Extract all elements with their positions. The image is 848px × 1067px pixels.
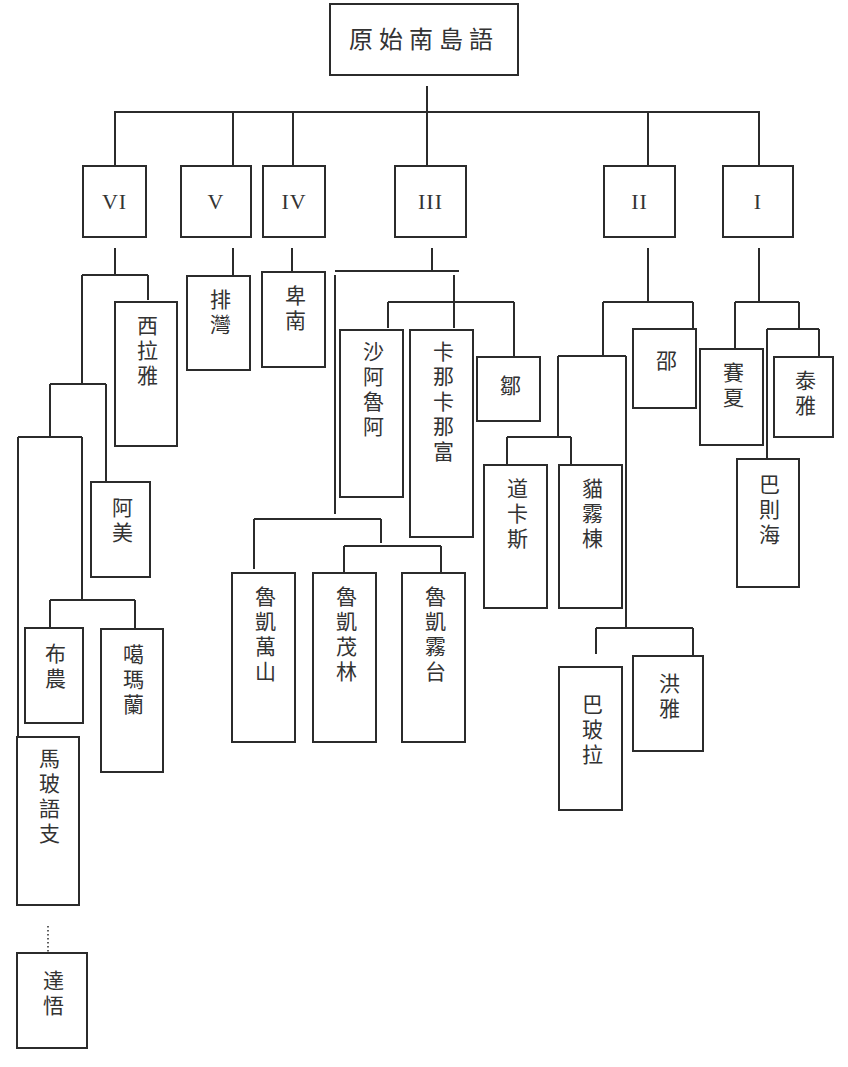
branch-label: IV [281, 187, 306, 217]
branch-node-vi: VI [82, 165, 147, 238]
branch-label: V [208, 187, 225, 217]
language-node-mapo-subgroup: 馬玻語支 [16, 736, 80, 906]
language-label: 巴則海 [753, 474, 783, 586]
language-label: 排灣 [204, 289, 234, 369]
language-label: 布農 [39, 643, 69, 722]
language-label: 魯凱茂林 [330, 586, 360, 741]
language-node-bunun: 布農 [24, 627, 84, 724]
language-label: 泰雅 [789, 370, 819, 436]
language-node-rukai-maolin: 魯凱茂林 [312, 572, 377, 743]
language-node-tao: 達悟 [16, 952, 88, 1049]
language-label: 洪雅 [653, 673, 683, 750]
language-node-amis: 阿美 [90, 481, 151, 578]
language-label: 賽夏 [717, 362, 747, 444]
language-node-saisiyat: 賽夏 [699, 348, 764, 446]
language-label: 西拉雅 [131, 315, 161, 445]
root-node-proto-austronesian: 原始南島語 [329, 3, 519, 76]
language-label: 鄒 [494, 375, 524, 420]
language-node-siraya: 西拉雅 [114, 301, 178, 447]
language-node-kavalan: 噶瑪蘭 [100, 628, 164, 773]
branch-label: III [418, 187, 443, 217]
language-label: 魯凱霧台 [419, 586, 449, 741]
language-node-taokas: 道卡斯 [483, 464, 548, 609]
branch-node-ii: II [603, 165, 676, 238]
language-node-hoanya: 洪雅 [632, 655, 704, 752]
branch-label: VI [102, 187, 127, 217]
language-node-rukai-wutai: 魯凱霧台 [401, 572, 466, 743]
language-node-kanakanavu: 卡那卡那富 [409, 329, 474, 538]
language-label: 巴玻拉 [576, 694, 606, 809]
branch-node-i: I [722, 165, 794, 238]
language-node-saaroa: 沙阿魯阿 [339, 329, 404, 498]
language-node-puyuma: 卑南 [261, 271, 326, 368]
language-node-pazeh: 巴則海 [736, 458, 800, 588]
language-label: 沙阿魯阿 [357, 341, 387, 496]
language-node-babuza: 貓霧棟 [558, 464, 623, 609]
branch-node-v: V [180, 165, 252, 238]
language-label: 阿美 [106, 497, 136, 576]
language-node-paiwan: 排灣 [186, 275, 251, 371]
language-node-atayal: 泰雅 [773, 356, 834, 438]
branch-label: I [754, 187, 762, 217]
branch-label: II [631, 187, 648, 217]
language-node-rukai-wanshan: 魯凱萬山 [231, 572, 296, 743]
language-label: 達悟 [37, 970, 67, 1047]
language-node-tsou: 鄒 [476, 356, 541, 422]
root-label: 原始南島語 [349, 25, 499, 55]
language-label: 噶瑪蘭 [117, 644, 147, 771]
language-label: 貓霧棟 [576, 478, 606, 607]
language-label: 邵 [650, 350, 680, 407]
language-label: 魯凱萬山 [249, 586, 279, 741]
branch-node-iii: III [394, 165, 467, 238]
language-label: 馬玻語支 [33, 748, 63, 904]
language-label: 卑南 [279, 285, 309, 366]
language-label: 卡那卡那富 [427, 341, 457, 536]
language-tree-diagram: 原始南島語 VI V IV III II I 西拉雅 阿美 布農 噶瑪蘭 馬玻語… [0, 0, 848, 1067]
language-label: 道卡斯 [501, 478, 531, 607]
language-node-papora: 巴玻拉 [558, 666, 623, 811]
branch-node-iv: IV [262, 165, 326, 238]
language-node-thao: 邵 [632, 328, 697, 409]
